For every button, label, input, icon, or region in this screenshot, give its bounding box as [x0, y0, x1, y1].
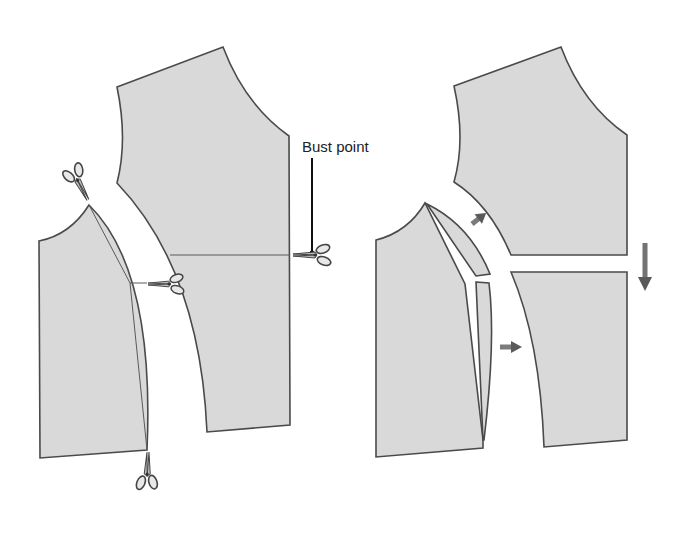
scissors-icon	[59, 160, 99, 206]
upper-center-piece	[454, 47, 627, 255]
side-front-piece	[39, 205, 148, 458]
panel-before: Bust point	[39, 47, 370, 491]
arrow-right-icon	[500, 341, 522, 353]
arrow-down-icon	[638, 243, 652, 291]
panel-after	[376, 47, 652, 457]
lower-center-piece	[511, 272, 627, 447]
bust-point-label: Bust point	[302, 138, 370, 155]
scissors-icon	[134, 452, 160, 492]
pattern-diagram: Bust point	[0, 0, 682, 537]
